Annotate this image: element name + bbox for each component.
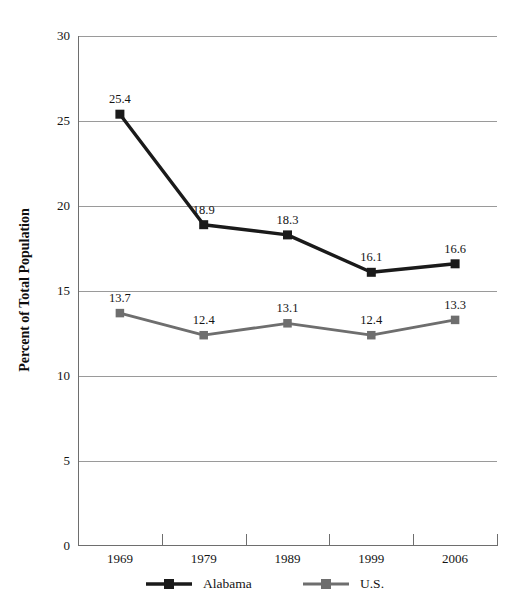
data-point-value-label: 16.6 [444,242,466,256]
data-point-value-label: 16.1 [360,250,382,264]
y-axis-tick-label: 5 [64,453,71,468]
x-axis-tick-label: 1999 [358,551,384,566]
data-point-value-label: 12.4 [360,313,383,327]
chart-figure: 051015202530 19691979198919992006 25.418… [0,0,523,616]
legend-label: Alabama [203,576,252,591]
x-axis-tick-label: 1969 [107,551,133,566]
data-point-value-label: 18.9 [193,203,215,217]
y-axis-tick-label: 30 [57,28,70,43]
data-point-value-label: 18.3 [277,213,299,227]
line-chart: 051015202530 19691979198919992006 25.418… [0,0,523,616]
data-point-marker [367,268,376,277]
y-axis-tick-label: 10 [57,368,70,383]
x-axis-tick-label: 1989 [275,551,301,566]
data-point-marker [116,309,125,318]
data-point-marker [451,316,460,325]
data-point-marker [199,220,208,229]
y-axis-tick-label: 25 [57,113,70,128]
data-point-value-label: 12.4 [193,313,216,327]
y-axis-tick-label: 0 [64,538,71,553]
data-point-marker [367,331,376,340]
x-axis-tick-label: 1979 [191,551,217,566]
y-axis-tick-label: 15 [57,283,70,298]
y-axis-title: Percent of Total Population [17,208,32,372]
data-point-marker [115,110,124,119]
legend-marker-swatch [321,579,331,589]
x-axis-tick-label: 2006 [442,551,469,566]
y-axis-tick-label: 20 [57,198,70,213]
data-point-marker [283,319,292,328]
data-point-value-label: 13.1 [277,301,299,315]
data-point-marker [283,230,292,239]
data-point-value-label: 13.7 [109,291,131,305]
data-point-value-label: 13.3 [444,298,466,312]
data-point-marker [451,259,460,268]
legend-label: U.S. [360,576,384,591]
data-point-value-label: 25.4 [109,92,132,106]
data-point-marker [199,331,208,340]
legend-marker-swatch [164,579,174,589]
